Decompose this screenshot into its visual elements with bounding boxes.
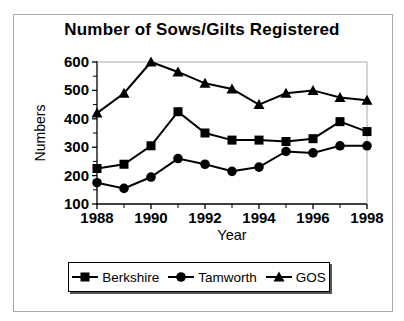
legend: Berkshire Tamworth GOS bbox=[68, 262, 330, 292]
square-marker bbox=[282, 137, 291, 146]
square-marker bbox=[336, 117, 345, 126]
square-marker bbox=[174, 107, 183, 116]
triangle-marker-icon bbox=[266, 271, 292, 283]
circle-marker bbox=[146, 172, 156, 182]
circle-marker bbox=[281, 147, 291, 157]
circle-marker bbox=[254, 162, 264, 172]
circle-marker bbox=[173, 154, 183, 164]
y-tick-label: 600 bbox=[64, 53, 89, 70]
square-marker bbox=[255, 136, 264, 145]
y-tick-label: 400 bbox=[64, 110, 89, 127]
y-tick-label: 500 bbox=[64, 81, 89, 98]
y-tick-label: 300 bbox=[64, 138, 89, 155]
x-tick-label: 1990 bbox=[134, 209, 167, 226]
legend-label-tamworth: Tamworth bbox=[198, 270, 257, 285]
legend-item-gos: GOS bbox=[266, 270, 326, 285]
x-tick-label: 1994 bbox=[242, 209, 276, 226]
square-marker bbox=[147, 141, 156, 150]
legend-item-berkshire: Berkshire bbox=[72, 270, 159, 285]
legend-label-berkshire: Berkshire bbox=[102, 270, 159, 285]
square-marker bbox=[201, 129, 210, 138]
circle-marker bbox=[200, 159, 210, 169]
square-marker bbox=[309, 134, 318, 143]
square-marker bbox=[93, 164, 102, 173]
circle-marker bbox=[335, 141, 345, 151]
x-tick-label: 1988 bbox=[80, 209, 113, 226]
legend-item-tamworth: Tamworth bbox=[168, 270, 257, 285]
x-tick-label: 1996 bbox=[296, 209, 329, 226]
circle-marker bbox=[308, 148, 318, 158]
x-axis-title: Year bbox=[217, 227, 246, 243]
square-marker bbox=[120, 160, 129, 169]
circle-marker bbox=[362, 141, 372, 151]
y-axis-title: Numbers bbox=[32, 105, 48, 162]
square-marker-icon bbox=[72, 271, 98, 283]
chart-figure: Number of Sows/Gilts Registered Numbers … bbox=[0, 0, 404, 321]
x-tick-label: 1992 bbox=[188, 209, 221, 226]
x-tick-label: 1998 bbox=[350, 209, 383, 226]
triangle-marker bbox=[254, 99, 265, 109]
circle-marker bbox=[92, 178, 102, 188]
y-tick-label: 200 bbox=[64, 167, 89, 184]
circle-marker-icon bbox=[168, 271, 194, 283]
circle-marker bbox=[227, 167, 237, 177]
circle-marker bbox=[119, 184, 129, 194]
legend-label-gos: GOS bbox=[296, 270, 326, 285]
square-marker bbox=[363, 127, 372, 136]
square-marker bbox=[228, 136, 237, 145]
triangle-marker bbox=[200, 78, 211, 88]
plot-area: Numbers Year 100200300400500600198819901… bbox=[0, 0, 404, 255]
